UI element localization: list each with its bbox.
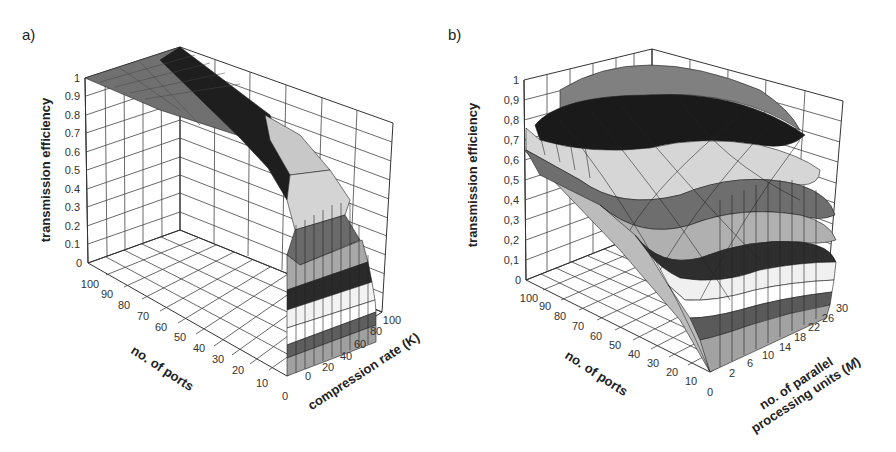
svg-text:100: 100 (520, 292, 538, 304)
svg-text:60: 60 (590, 330, 602, 342)
svg-text:40: 40 (340, 350, 352, 362)
chart-b-zlabel: transmission efficiency (465, 102, 480, 247)
svg-text:60: 60 (155, 321, 167, 333)
svg-text:50: 50 (609, 339, 621, 351)
svg-text:90: 90 (101, 288, 113, 300)
svg-text:20: 20 (322, 361, 334, 373)
svg-text:70: 70 (572, 320, 584, 332)
svg-text:60: 60 (354, 338, 366, 350)
svg-text:1: 1 (74, 72, 80, 84)
chart-b-xlabel: no. of ports (562, 347, 630, 399)
svg-text:0.3: 0.3 (65, 201, 80, 213)
svg-text:0.9: 0.9 (65, 90, 80, 102)
svg-text:0.4: 0.4 (65, 183, 80, 195)
svg-text:0.6: 0.6 (65, 146, 80, 158)
svg-text:80: 80 (554, 310, 566, 322)
svg-text:0,5: 0,5 (504, 174, 519, 186)
svg-text:0: 0 (76, 257, 82, 269)
svg-text:0.2: 0.2 (65, 220, 80, 232)
chart-a-x-axis: 100 90 80 70 60 50 40 30 20 10 0 no. of … (81, 278, 288, 402)
chart-a-xlabel: no. of ports (128, 342, 196, 394)
svg-text:0,7: 0,7 (504, 134, 519, 146)
svg-text:0,4: 0,4 (504, 194, 519, 206)
svg-text:50: 50 (174, 331, 186, 343)
chart-b: b) (448, 26, 863, 436)
figure-canvas: a) (0, 0, 896, 452)
svg-text:0: 0 (305, 370, 311, 382)
svg-text:0,1: 0,1 (504, 254, 519, 266)
panel-a-label: a) (22, 26, 35, 43)
svg-text:10: 10 (685, 375, 697, 387)
svg-text:0.5: 0.5 (65, 164, 80, 176)
svg-text:0.1: 0.1 (65, 238, 80, 250)
svg-text:80: 80 (370, 325, 382, 337)
svg-text:30: 30 (212, 353, 224, 365)
svg-text:20: 20 (666, 366, 678, 378)
svg-text:90: 90 (539, 300, 551, 312)
svg-text:2: 2 (729, 367, 735, 379)
svg-text:0: 0 (515, 274, 521, 286)
svg-text:14: 14 (779, 341, 791, 353)
svg-text:30: 30 (647, 357, 659, 369)
svg-text:0: 0 (282, 390, 288, 402)
svg-text:30: 30 (836, 302, 848, 314)
svg-text:18: 18 (794, 331, 806, 343)
panel-b-label: b) (448, 26, 461, 43)
svg-text:26: 26 (822, 312, 834, 324)
svg-text:100: 100 (383, 314, 401, 326)
chart-a: a) (22, 26, 422, 413)
svg-text:10: 10 (256, 377, 268, 389)
chart-b-surface (524, 65, 836, 372)
svg-text:6: 6 (747, 357, 753, 369)
svg-text:70: 70 (137, 310, 149, 322)
svg-text:0,6: 0,6 (504, 154, 519, 166)
svg-text:80: 80 (118, 299, 130, 311)
svg-text:0,9: 0,9 (504, 94, 519, 106)
chart-a-zlabel: transmission efficiency (38, 97, 53, 242)
svg-text:100: 100 (81, 278, 99, 290)
svg-text:22: 22 (808, 321, 820, 333)
svg-text:20: 20 (232, 364, 244, 376)
svg-text:40: 40 (628, 348, 640, 360)
svg-text:no. of parallel proces: no. of parallel processing units (M) (740, 341, 863, 435)
svg-text:10: 10 (762, 349, 774, 361)
chart-b-z-axis: 1 0,9 0,8 0,7 0,6 0,5 0,4 0,3 0,2 0,1 0 … (465, 74, 526, 286)
svg-text:1: 1 (513, 74, 519, 86)
svg-text:40: 40 (193, 342, 205, 354)
svg-text:0.8: 0.8 (65, 109, 80, 121)
svg-text:0.7: 0.7 (65, 127, 80, 139)
svg-text:0,3: 0,3 (504, 214, 519, 226)
chart-a-z-axis: 1 0.9 0.8 0.7 0.6 0.5 0.4 0.3 0.2 0.1 0 … (38, 72, 88, 269)
svg-text:0,8: 0,8 (504, 114, 519, 126)
svg-text:0,2: 0,2 (504, 234, 519, 246)
